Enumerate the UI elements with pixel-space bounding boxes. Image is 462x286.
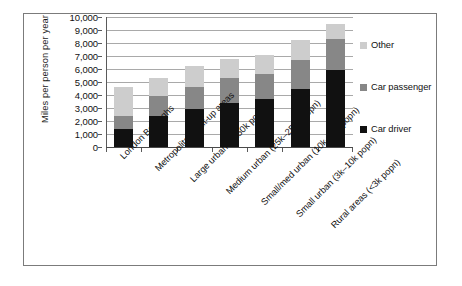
chart-legend: OtherCar passengerCar driver [360, 40, 436, 166]
bar-segment-car-passenger [326, 39, 345, 70]
bar-segment-other [326, 24, 345, 39]
y-axis-tick-mark [98, 134, 102, 135]
legend-item-car-passenger: Car passenger [360, 82, 436, 92]
bar-segment-other [149, 78, 168, 96]
y-axis-tick-label: 10,000 [70, 12, 98, 23]
y-axis-tick-label: 4,000 [75, 90, 98, 101]
y-axis-tick-mark [98, 82, 102, 83]
y-axis-tick-mark [98, 147, 102, 148]
y-axis-tick-label: 9,000 [75, 25, 98, 36]
bar-segment-car-passenger [291, 60, 310, 89]
y-axis-tick-mark [98, 43, 102, 44]
bar-stack [255, 55, 274, 147]
y-axis-tick-label: 5,000 [75, 77, 98, 88]
legend-swatch-icon [360, 42, 367, 49]
y-axis-tick-label: 8,000 [75, 38, 98, 49]
chart-container: Miles per person per year 10,0009,0008,0… [23, 13, 437, 266]
legend-item-car-driver: Car driver [360, 124, 436, 134]
y-axis-tick-label: 2,000 [75, 116, 98, 127]
legend-label: Car driver [371, 124, 411, 134]
y-axis-tick-mark [98, 56, 102, 57]
bar-segment-car-passenger [185, 87, 204, 109]
legend-item-other: Other [360, 40, 436, 50]
y-axis-tick-mark [98, 17, 102, 18]
bar-segment-other [255, 55, 274, 74]
y-axis-tick-label: 1,000 [75, 129, 98, 140]
y-axis-tick-mark [98, 108, 102, 109]
y-axis-tick-mark [98, 121, 102, 122]
y-axis-tick-label: 6,000 [75, 64, 98, 75]
bar-segment-car-passenger [114, 116, 133, 129]
y-axis-tick-mark [98, 69, 102, 70]
y-axis-title: Miles per person per year [40, 4, 50, 134]
x-axis-category-labels: London BoroughsMetropolitan built-up are… [24, 152, 438, 262]
y-axis-tick-mark [98, 30, 102, 31]
y-axis-tick-labels: 10,0009,0008,0007,0006,0005,0004,0003,00… [52, 17, 102, 148]
y-axis-tick-label: 7,000 [75, 51, 98, 62]
bar-segment-other [185, 66, 204, 86]
legend-label: Other [371, 40, 394, 50]
y-axis-tick-label: 3,000 [75, 103, 98, 114]
bar-segment-car-passenger [255, 74, 274, 99]
bar-segment-other [114, 87, 133, 116]
bar-stack [114, 87, 133, 147]
y-axis-tick-mark [98, 95, 102, 96]
legend-swatch-icon [360, 126, 367, 133]
bar-segment-other [291, 40, 310, 60]
legend-label: Car passenger [371, 82, 431, 92]
legend-swatch-icon [360, 84, 367, 91]
bar-segment-other [220, 59, 239, 78]
